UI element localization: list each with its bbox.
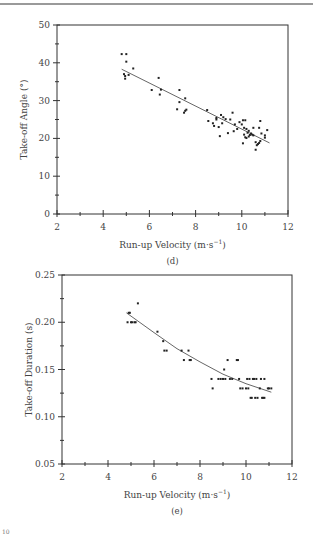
data-point — [176, 108, 178, 110]
data-point — [220, 378, 222, 380]
data-point — [255, 378, 257, 380]
chart-take-off-duration: 246810120.050.100.150.200.25Run-up Veloc… — [0, 268, 313, 540]
data-point — [229, 378, 231, 380]
y-tick-label: 10 — [39, 171, 51, 181]
data-point — [124, 75, 126, 77]
data-point — [123, 73, 125, 75]
data-point — [257, 397, 259, 399]
data-point — [163, 350, 165, 352]
data-point — [243, 134, 245, 136]
data-point — [229, 119, 231, 121]
data-point — [239, 387, 241, 389]
data-point — [238, 378, 240, 380]
data-point — [252, 127, 254, 129]
data-point — [219, 135, 221, 137]
data-point — [270, 387, 272, 389]
y-tick-label: 0.15 — [35, 365, 55, 375]
data-point — [248, 378, 250, 380]
y-axis-title: Take-off Angle (°) — [19, 80, 29, 160]
data-point — [260, 132, 262, 134]
plot-frame — [57, 25, 288, 214]
y-tick-label: 0.10 — [35, 412, 55, 422]
data-point — [236, 128, 238, 130]
y-tick-label: 0 — [44, 209, 50, 219]
x-axis-title: Run-up Velocity (m·s−1) — [124, 488, 231, 500]
data-point — [128, 74, 130, 76]
data-point — [268, 387, 270, 389]
data-point — [178, 89, 180, 91]
data-point — [231, 378, 233, 380]
data-point — [255, 149, 257, 151]
data-point — [238, 121, 240, 123]
y-tick-label: 0.05 — [35, 459, 55, 469]
x-tick-label: 8 — [197, 472, 203, 482]
data-point — [247, 387, 249, 389]
data-point — [220, 114, 222, 116]
data-point — [259, 120, 261, 122]
data-point — [258, 127, 260, 129]
x-tick-label: 6 — [151, 472, 157, 482]
data-point — [241, 123, 243, 125]
y-tick-label: 0.25 — [35, 270, 55, 280]
panel-caption: (e) — [171, 506, 183, 516]
x-tick-label: 10 — [236, 222, 248, 232]
data-point — [124, 78, 126, 80]
x-tick-label: 6 — [147, 222, 153, 232]
data-point — [183, 112, 185, 114]
data-point — [263, 397, 265, 399]
y-tick-label: 50 — [39, 20, 51, 30]
data-point — [248, 130, 250, 132]
x-axis-title: Run-up Velocity (m·s−1) — [119, 238, 226, 250]
data-point — [183, 359, 185, 361]
data-point — [178, 101, 180, 103]
data-point — [258, 142, 260, 144]
data-point — [121, 53, 123, 55]
data-point — [125, 53, 127, 55]
data-point — [135, 321, 137, 323]
data-point — [215, 119, 217, 121]
data-point — [151, 89, 153, 91]
plot-frame — [62, 275, 292, 464]
data-point — [190, 359, 192, 361]
data-point — [227, 132, 229, 134]
data-point — [181, 350, 183, 352]
x-tick-label: 12 — [286, 472, 297, 482]
data-point — [222, 116, 224, 118]
y-tick-label: 20 — [39, 133, 51, 143]
data-point — [252, 134, 254, 136]
panel-caption: (d) — [166, 256, 178, 266]
y-axis-title: Take-off Duration (s) — [24, 322, 34, 416]
data-point — [217, 378, 219, 380]
page-footer-mark: 10 — [2, 528, 10, 535]
data-point — [253, 378, 255, 380]
data-point — [162, 340, 164, 342]
x-tick-label: 2 — [59, 472, 65, 482]
data-point — [234, 123, 236, 125]
data-point — [206, 109, 208, 111]
data-point — [227, 359, 229, 361]
data-point — [218, 126, 220, 128]
data-point — [242, 387, 244, 389]
data-point — [244, 119, 246, 121]
data-point — [243, 127, 245, 129]
data-point — [158, 77, 160, 79]
data-point — [232, 112, 234, 114]
data-point — [159, 94, 161, 96]
data-point — [221, 122, 223, 124]
data-point — [246, 378, 248, 380]
data-point — [237, 359, 239, 361]
data-point — [247, 132, 249, 134]
data-point — [156, 331, 158, 333]
x-tick-label: 4 — [100, 222, 106, 232]
data-point — [160, 89, 162, 91]
data-point — [129, 312, 131, 314]
data-point — [212, 387, 214, 389]
x-tick-label: 8 — [193, 222, 199, 232]
x-tick-label: 2 — [54, 222, 60, 232]
data-point — [125, 61, 127, 63]
data-point — [224, 378, 226, 380]
y-tick-label: 40 — [39, 58, 51, 68]
data-point — [213, 125, 215, 127]
data-point — [225, 118, 227, 120]
y-tick-label: 30 — [39, 96, 51, 106]
